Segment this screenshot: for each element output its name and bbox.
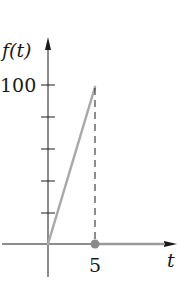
x-axis-arrow-icon xyxy=(164,241,177,247)
y-axis-label: f(t) xyxy=(0,39,32,61)
filled-dot xyxy=(91,240,100,249)
y-axis-arrow-icon xyxy=(45,37,51,50)
x-tick-label-5: 5 xyxy=(89,254,101,276)
ramp-line xyxy=(48,87,95,244)
y-tick-label-100: 100 xyxy=(0,74,36,96)
chart-plot: f(t) 100 5 t xyxy=(0,0,184,289)
x-axis-label: t xyxy=(167,249,175,271)
